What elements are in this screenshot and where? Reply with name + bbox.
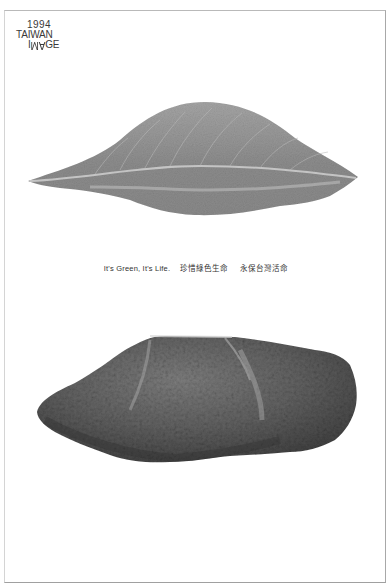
tagline: It's Green, It's Life.珍惜綠色生命永保台灣活命 <box>0 262 392 273</box>
artwork <box>0 0 392 586</box>
rock-image <box>37 336 357 462</box>
leaf-image <box>28 102 358 215</box>
tagline-english: It's Green, It's Life. <box>104 264 170 273</box>
tagline-chinese-1: 珍惜綠色生命 <box>180 262 228 273</box>
tagline-chinese-2: 永保台灣活命 <box>240 262 288 273</box>
